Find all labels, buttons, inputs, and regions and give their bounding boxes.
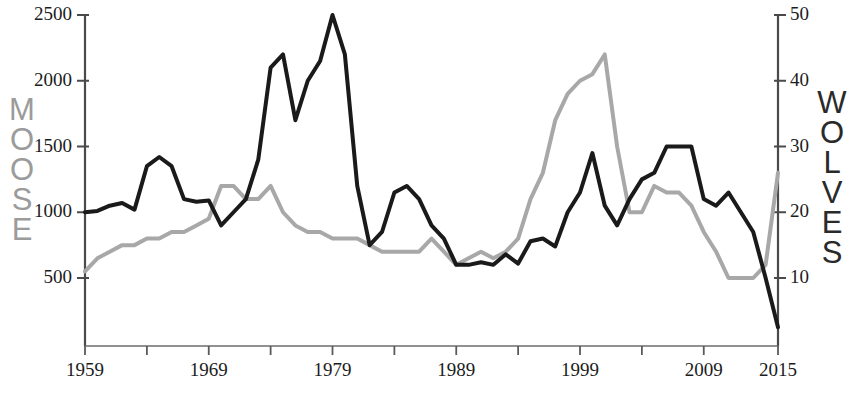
axis-title-letter: E [822,208,843,238]
x-axis-tick-label: 1989 [424,359,488,381]
axis-title-letter: O [10,155,34,185]
y-axis-right-tick-label: 20 [790,200,809,222]
y-axis-left-tick-label: 2000 [34,69,72,91]
y-axis-right-tick-label: 40 [790,69,809,91]
series-line-wolves [85,54,778,278]
x-axis-tick-label: 2015 [746,359,810,381]
x-axis-tick-label: 1979 [301,359,365,381]
series-line-moose [85,15,778,327]
right-axis-title-wolves: WOLVES [812,88,852,268]
y-axis-right-tick-label: 50 [790,3,809,25]
y-axis-left-tick-label: 500 [44,266,73,288]
axis-title-letter: S [822,238,843,268]
axis-title-letter: V [822,178,843,208]
y-axis-left-tick-label: 1000 [34,200,72,222]
axis-title-letter: L [823,148,840,178]
y-axis-right-tick-label: 30 [790,135,809,157]
axis-title-letter: O [820,118,844,148]
x-axis-tick-label: 1959 [53,359,117,381]
chart-container: MOOSE WOLVES 500100015002000250010203040… [0,0,855,395]
y-axis-right-tick-label: 10 [790,266,809,288]
axis-title-letter: W [817,88,846,118]
y-axis-left-tick-label: 2500 [34,3,72,25]
x-axis-tick-label: 2009 [672,359,736,381]
axis-title-letter: O [10,125,34,155]
left-axis-title-moose: MOOSE [2,95,42,245]
axis-lines [85,15,778,346]
axis-title-letter: E [12,215,33,245]
axis-ticks [77,15,786,355]
y-axis-left-tick-label: 1500 [34,135,72,157]
x-axis-tick-label: 1999 [548,359,612,381]
axis-title-letter: M [9,95,35,125]
x-axis-tick-label: 1969 [177,359,241,381]
chart-plot-area [0,0,855,395]
axis-title-letter: S [12,185,33,215]
